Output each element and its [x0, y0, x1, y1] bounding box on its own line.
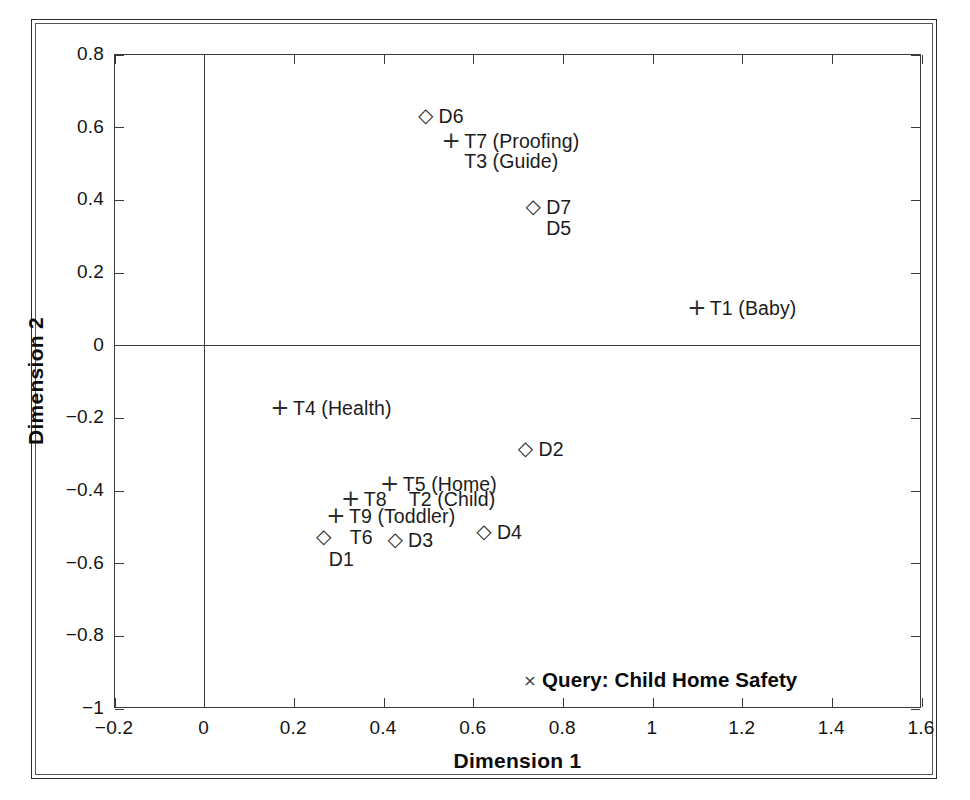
- x-tick-mark: [563, 698, 564, 707]
- x-tick-mark: [384, 55, 385, 64]
- y-tick-mark: [911, 563, 920, 564]
- y-tick-mark: [911, 200, 920, 201]
- data-point-label: T4 (Health): [293, 397, 392, 420]
- x-tick-mark: [294, 698, 295, 707]
- x-tick-mark: [653, 698, 654, 707]
- y-tick-label: 0: [93, 334, 104, 356]
- y-tick-mark: [115, 55, 124, 56]
- x-tick-label: 1.4: [818, 717, 845, 739]
- y-tick-mark: [115, 273, 124, 274]
- x-tick-label: 0.6: [459, 717, 486, 739]
- y-tick-mark: [911, 345, 920, 346]
- x-tick-mark: [742, 698, 743, 707]
- data-point-label: D5: [546, 217, 571, 240]
- data-point-label: Query: Child Home Safety: [542, 668, 797, 692]
- y-tick-label: −0.6: [66, 552, 104, 574]
- y-tick-mark: [911, 127, 920, 128]
- y-tick-mark: [911, 636, 920, 637]
- x-tick-mark: [563, 55, 564, 64]
- x-tick-label: 1.2: [728, 717, 755, 739]
- y-tick-mark: [115, 636, 124, 637]
- data-point-label: D4: [497, 521, 522, 544]
- x-tick-mark: [832, 698, 833, 707]
- y-tick-mark: [911, 273, 920, 274]
- y-tick-mark: [115, 345, 124, 346]
- x-tick-mark: [922, 55, 923, 64]
- y-tick-mark: [115, 127, 124, 128]
- horizontal-zero-line: [115, 345, 920, 347]
- x-tick-mark: [384, 698, 385, 707]
- y-tick-label: −1: [82, 697, 104, 719]
- vertical-zero-line: [204, 55, 206, 707]
- x-axis-title: Dimension 1: [453, 749, 581, 773]
- y-tick-label: −0.2: [66, 406, 104, 428]
- y-tick-mark: [115, 709, 124, 710]
- x-tick-label: 1: [647, 717, 658, 739]
- figure-canvas: Dimension 2 Dimension 1 −0.200.20.40.60.…: [0, 0, 970, 800]
- x-tick-mark: [922, 698, 923, 707]
- x-tick-label: 0.4: [369, 717, 396, 739]
- data-point-label: D2: [539, 438, 564, 461]
- data-point-label: D6: [439, 105, 464, 128]
- y-tick-label: 0.4: [77, 188, 104, 210]
- x-tick-label: −0.2: [95, 717, 133, 739]
- x-tick-label: 1.6: [907, 717, 934, 739]
- y-tick-mark: [911, 491, 920, 492]
- y-tick-label: −0.8: [66, 624, 104, 646]
- y-tick-mark: [911, 418, 920, 419]
- data-point-label: T3 (Guide): [464, 150, 558, 173]
- data-point-label: D1: [329, 548, 354, 571]
- y-tick-mark: [911, 709, 920, 710]
- x-tick-mark: [115, 698, 116, 707]
- y-tick-mark: [115, 563, 124, 564]
- x-tick-mark: [742, 55, 743, 64]
- data-point-label: T6: [350, 526, 373, 549]
- x-tick-mark: [653, 55, 654, 64]
- data-point-label: D3: [408, 529, 433, 552]
- x-tick-label: 0.8: [549, 717, 576, 739]
- y-tick-label: 0.6: [77, 116, 104, 138]
- x-tick-label: 0: [198, 717, 209, 739]
- y-tick-mark: [115, 418, 124, 419]
- y-tick-mark: [115, 200, 124, 201]
- y-tick-label: 0.2: [77, 261, 104, 283]
- x-tick-label: 0.2: [280, 717, 307, 739]
- x-tick-mark: [115, 55, 116, 64]
- x-tick-mark: [473, 698, 474, 707]
- y-tick-mark: [911, 55, 920, 56]
- data-point-label: T1 (Baby): [710, 297, 797, 320]
- y-tick-label: 0.8: [77, 43, 104, 65]
- x-tick-mark: [204, 55, 205, 64]
- data-point-label: T9 (Toddler): [349, 505, 455, 528]
- x-tick-mark: [832, 55, 833, 64]
- y-axis-title: Dimension 2: [24, 317, 48, 445]
- y-tick-label: −0.4: [66, 479, 104, 501]
- x-tick-mark: [473, 55, 474, 64]
- x-tick-mark: [294, 55, 295, 64]
- x-tick-mark: [204, 698, 205, 707]
- y-tick-mark: [115, 491, 124, 492]
